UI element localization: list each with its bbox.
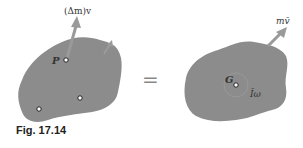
mv-bar-label: mv̄ — [276, 16, 290, 26]
momentum-diagram: (Δm)v P = mv̄ G Īω Fig. 17.14 — [0, 0, 303, 148]
particle-marker — [37, 107, 41, 111]
point-p-label: P — [51, 55, 60, 66]
particle-marker — [78, 96, 82, 100]
center-g-label: G — [225, 74, 234, 85]
equals-sign: = — [142, 67, 159, 91]
delta-m-v-label: (Δm)v — [64, 6, 92, 16]
mass-center-marker — [234, 83, 238, 87]
particle-p-marker — [64, 58, 68, 62]
arrowhead-icon — [71, 16, 81, 28]
figure-caption: Fig. 17.14 — [16, 124, 66, 136]
right-rigid-body — [184, 42, 287, 122]
i-omega-label: Īω — [249, 88, 262, 99]
mv-bar-arrow — [268, 34, 280, 46]
